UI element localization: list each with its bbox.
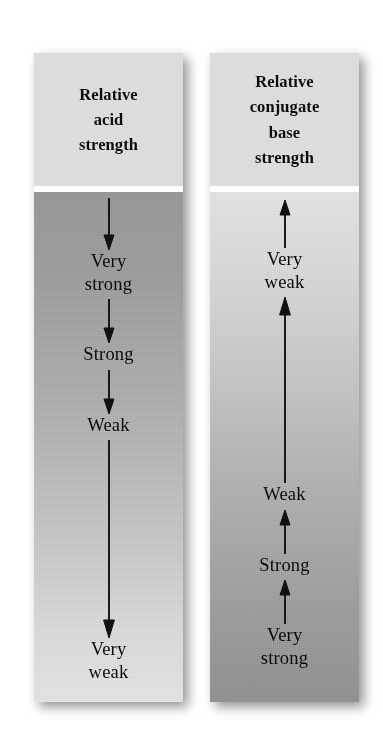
acid-label-weak: Weak: [87, 414, 129, 437]
down-arrow-icon-2: [101, 299, 117, 343]
base-label-strong: Strong: [259, 554, 310, 577]
up-arrow-icon-long: [277, 297, 293, 483]
down-arrow-icon-3: [101, 370, 117, 414]
panel-relative-acid-strength: Relative acid strength Very strong: [34, 53, 183, 702]
panel-header-base: Relative conjugate base strength: [210, 53, 359, 186]
panel-title-acid: Relative acid strength: [79, 82, 138, 157]
base-label-very-weak: Very weak: [265, 248, 305, 293]
panel-body-acid: Very strong Strong Weak: [34, 192, 183, 702]
panel-relative-conjugate-base-strength: Relative conjugate base strength Very we…: [210, 53, 359, 702]
down-arrow-icon-1: [101, 198, 117, 250]
up-arrow-icon-3: [277, 580, 293, 624]
down-arrow-icon-long: [101, 440, 117, 638]
acid-strength-scale: Very strong Strong Weak: [34, 192, 183, 702]
base-label-weak: Weak: [263, 483, 305, 506]
conjugate-base-strength-scale: Very weak Weak Strong: [210, 192, 359, 702]
acid-label-very-strong: Very strong: [85, 250, 132, 295]
up-arrow-icon-1: [277, 200, 293, 248]
base-label-very-strong: Very strong: [261, 624, 308, 669]
acid-label-strong: Strong: [83, 343, 134, 366]
panel-header-acid: Relative acid strength: [34, 53, 183, 186]
acid-label-very-weak: Very weak: [89, 638, 129, 683]
panel-title-base: Relative conjugate base strength: [250, 69, 320, 169]
panel-body-base: Very weak Weak Strong: [210, 192, 359, 702]
up-arrow-icon-2: [277, 510, 293, 554]
figure-canvas: Relative acid strength Very strong: [0, 0, 383, 749]
